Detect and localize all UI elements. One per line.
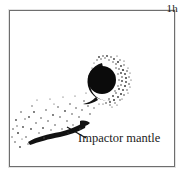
core-ejecta-tail [83,97,98,104]
target-core [88,66,116,94]
figure-panel: 1h Impactor mantle [0,0,183,175]
impactor-mantle-streak-tip [80,121,90,127]
impactor-mantle-label: Impactor mantle [78,131,160,145]
time-label: 1h [167,2,178,14]
impactor-mantle-streak [28,123,85,145]
